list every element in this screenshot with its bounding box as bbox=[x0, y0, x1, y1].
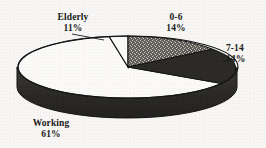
slice-label-elderly-percent: 11% bbox=[42, 23, 104, 34]
slice-label-0-6-name: 0-6 bbox=[170, 12, 183, 22]
pie-chart-figure: Elderly 11% 0-6 14% 7-14 14% Working 61% bbox=[0, 0, 266, 148]
slice-label-elderly: Elderly 11% bbox=[42, 12, 104, 34]
slice-label-working-name: Working bbox=[33, 118, 70, 128]
slice-label-7-14: 7-14 14% bbox=[226, 43, 266, 65]
slice-label-7-14-name: 7-14 bbox=[226, 43, 244, 53]
slice-label-7-14-percent: 14% bbox=[226, 54, 266, 65]
slice-label-working: Working 61% bbox=[18, 118, 84, 140]
slice-label-working-percent: 61% bbox=[18, 129, 84, 140]
slice-label-0-6: 0-6 14% bbox=[152, 12, 200, 34]
slice-label-elderly-name: Elderly bbox=[58, 12, 89, 22]
slice-label-0-6-percent: 14% bbox=[152, 23, 200, 34]
